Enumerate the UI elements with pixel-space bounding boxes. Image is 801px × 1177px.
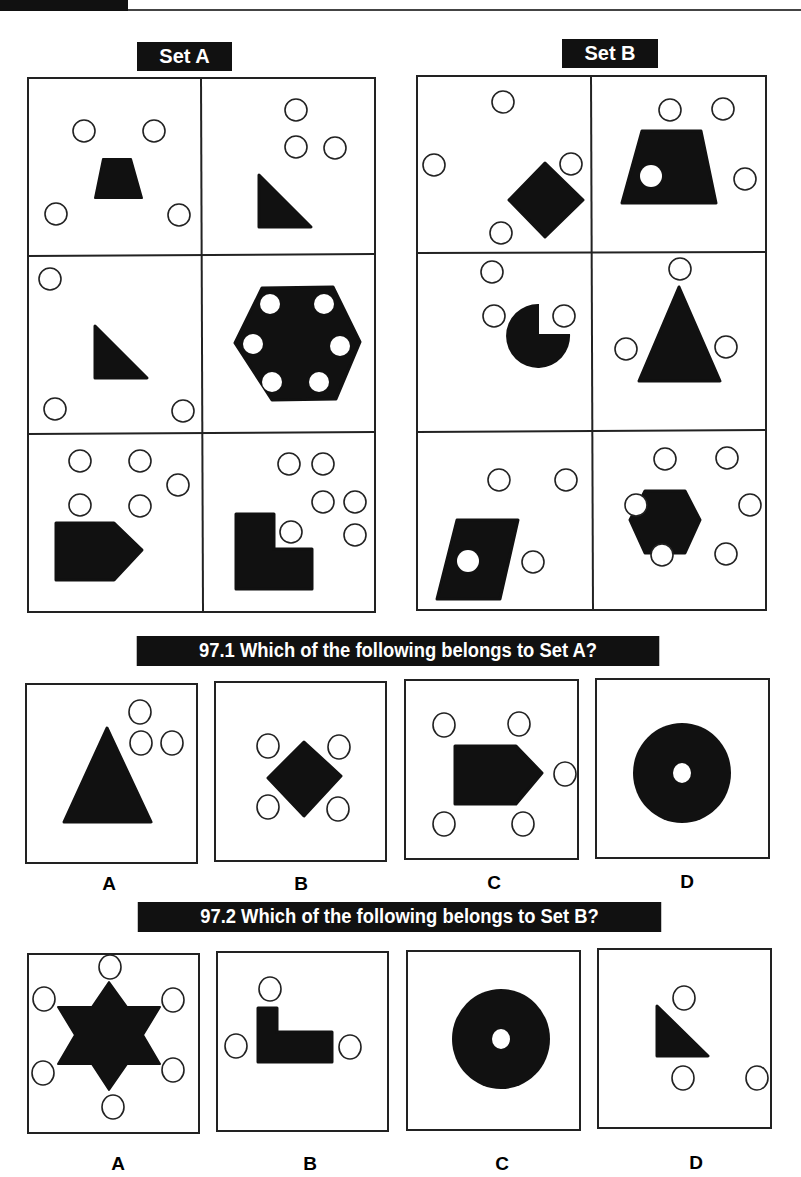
q1-option-c[interactable]: C — [474, 872, 514, 894]
set-a-cell-4 — [235, 287, 360, 400]
set-a-cell-6 — [236, 453, 366, 589]
set-b-cell-5 — [437, 469, 577, 599]
q1-option-a-figure — [64, 700, 183, 822]
q2-option-b[interactable]: B — [290, 1153, 330, 1175]
set-b-cell-1 — [423, 91, 583, 244]
q1-option-b[interactable]: B — [281, 873, 321, 895]
set-a-cell-1 — [45, 120, 190, 226]
q1-option-d[interactable]: D — [667, 871, 707, 893]
q1-option-d-figure — [633, 723, 731, 823]
q2-option-a[interactable]: A — [98, 1153, 138, 1175]
question-97-1-title: 97.1 Which of the following belongs to S… — [137, 636, 660, 666]
q1-option-b-figure — [257, 734, 350, 821]
q2-option-c[interactable]: C — [482, 1153, 522, 1175]
question-97-2-title: 97.2 Which of the following belongs to S… — [138, 902, 661, 932]
set-b-cell-2 — [622, 98, 756, 203]
set-b-cell-4 — [615, 258, 737, 381]
q2-option-d-figure — [657, 986, 768, 1090]
q1-option-a[interactable]: A — [89, 873, 129, 895]
q2-option-d[interactable]: D — [676, 1152, 716, 1174]
set-b-cell-6 — [625, 447, 761, 566]
set-b-cell-3 — [481, 261, 575, 368]
q2-option-a-figure — [32, 955, 184, 1119]
q2-option-b-figure — [225, 977, 361, 1062]
set-a-cell-5 — [56, 450, 189, 580]
q2-option-c-figure — [452, 989, 550, 1089]
set-a-cell-2 — [259, 99, 346, 227]
set-a-cell-3 — [39, 268, 194, 422]
figures-canvas — [0, 0, 801, 1177]
q1-option-c-figure — [433, 712, 576, 836]
